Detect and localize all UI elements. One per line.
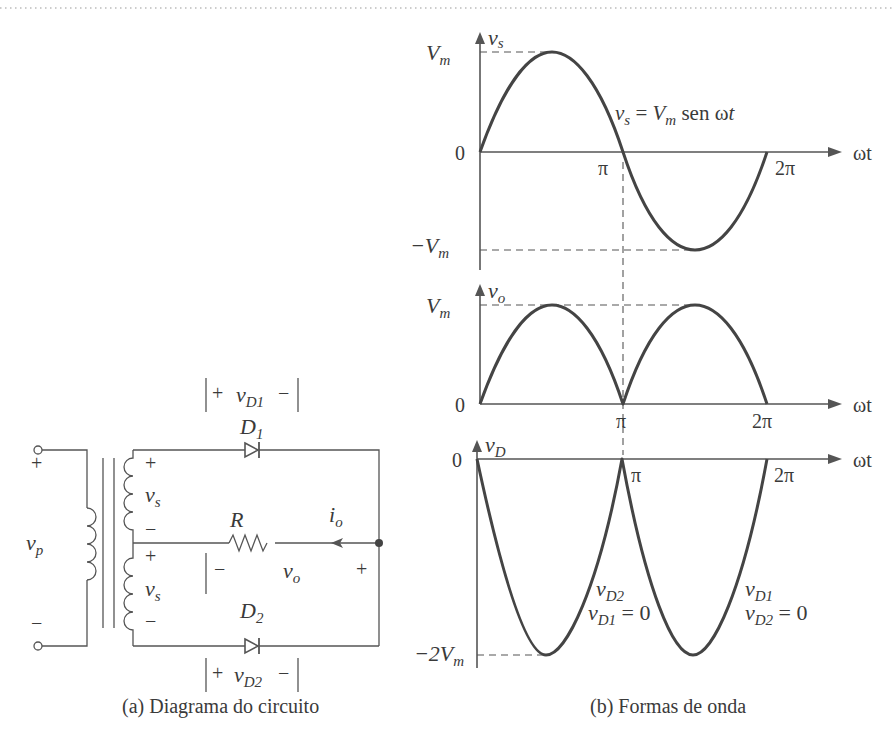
primary-plus-label: + <box>31 452 42 474</box>
secondary-coil-bottom-icon <box>124 543 133 646</box>
vd-neg2vm-label: −2Vm <box>414 641 464 669</box>
vs-curve <box>480 52 767 250</box>
secondary-top-plus: + <box>145 452 156 474</box>
secondary-coil-top-icon <box>124 450 133 543</box>
vo-x-arrow-icon <box>828 399 842 409</box>
vs-pi-label: π <box>598 157 608 179</box>
resistor-icon <box>229 535 267 551</box>
primary-wire-top <box>42 450 87 508</box>
primary-coil-icon <box>87 508 96 580</box>
secondary-top-voltage: vs <box>145 482 161 510</box>
output-current-label: io <box>329 502 343 530</box>
diode-d1-icon <box>245 442 259 458</box>
primary-terminal-bottom <box>34 642 42 650</box>
annotation-vd2-zero: vD2 = 0 <box>745 600 808 628</box>
secondary-bottom-voltage: vs <box>145 576 161 604</box>
primary-minus-label: − <box>31 612 42 634</box>
resistor-label: R <box>229 507 244 532</box>
vo-pi-label: π <box>616 410 626 432</box>
vd2-label: vD2 <box>234 662 263 690</box>
vd-y-label: vD <box>485 432 506 460</box>
vo-x-label: ωt <box>853 394 872 416</box>
caption-b: (b) Formas de onda <box>590 695 746 718</box>
node-dot <box>375 539 383 547</box>
vd-pi-label: π <box>631 464 641 486</box>
vs-neg-vm-label: −Vm <box>410 233 449 261</box>
vd1-minus: − <box>278 382 289 404</box>
secondary-top-minus: − <box>145 518 156 540</box>
vo-zero-label: 0 <box>455 394 465 416</box>
chart-vo: Vm 0 vo π 2π ωt <box>426 278 872 432</box>
vo-minus: − <box>214 558 225 580</box>
circuit-diagram: + − vp + vs − + vs − D1 + v <box>26 378 383 718</box>
diode-d2-icon <box>245 638 259 654</box>
wire-top-right <box>259 450 379 646</box>
diode-d1-label: D1 <box>239 414 263 442</box>
secondary-bottom-plus: + <box>145 545 156 567</box>
vs-x-label: ωt <box>853 142 872 164</box>
vs-equation: vs = Vm sen ωt <box>615 101 736 128</box>
vd-zero-label: 0 <box>452 449 462 471</box>
chart-vs: Vm 0 −Vm vs π 2π ωt vs = Vm sen ωt <box>410 25 872 270</box>
vd-2pi-label: 2π <box>774 464 794 486</box>
vs-2pi-label: 2π <box>775 157 795 179</box>
vs-x-arrow-icon <box>828 147 842 157</box>
vd2-minus: − <box>278 662 289 684</box>
caption-a: (a) Diagrama do circuito <box>122 695 319 718</box>
vo-plus: + <box>356 558 367 580</box>
vd-x-label: ωt <box>853 449 872 471</box>
vs-y-arrow-icon <box>475 32 485 44</box>
vd2-plus: + <box>212 662 223 684</box>
vd-curve <box>477 459 767 655</box>
vd-y-arrow-icon <box>472 440 482 452</box>
vs-zero-label: 0 <box>455 142 465 164</box>
vo-2pi-label: 2π <box>752 410 772 432</box>
primary-voltage-label: vp <box>26 530 44 558</box>
vo-y-arrow-icon <box>475 284 485 296</box>
vo-y-label: vo <box>488 278 506 306</box>
figure-canvas: + − vp + vs − + vs − D1 + v <box>0 0 893 731</box>
annotation-vd1-zero: vD1 = 0 <box>588 600 651 628</box>
secondary-bottom-minus: − <box>145 610 156 632</box>
vo-label: vo <box>283 558 301 586</box>
vd1-label: vD1 <box>236 382 264 410</box>
diode-d2-label: D2 <box>239 598 264 626</box>
vs-y-label: vs <box>488 25 504 51</box>
vd-x-arrow-icon <box>828 454 842 464</box>
primary-wire-bottom <box>42 580 87 646</box>
vs-vm-label: Vm <box>426 40 450 68</box>
vd1-plus: + <box>212 382 223 404</box>
chart-vd: 0 −2Vm vD π 2π ωt vD2 vD1 = 0 vD1 vD2 = … <box>414 432 872 669</box>
vo-vm-label: Vm <box>426 293 450 321</box>
